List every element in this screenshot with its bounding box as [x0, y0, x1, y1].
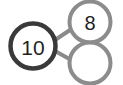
part-circle-bottom-empty[interactable]	[70, 43, 111, 84]
number-bond-diagram: 10 8	[0, 0, 123, 85]
part-top-value-label: 8	[84, 12, 95, 34]
whole-value-label: 10	[21, 36, 44, 59]
